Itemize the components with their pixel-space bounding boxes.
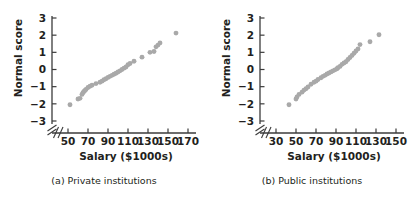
data-point — [174, 31, 179, 36]
x-axis-tick-label: 70 — [81, 135, 96, 147]
y-axis-tick-label: −1 — [30, 80, 46, 92]
y-axis-tick-label: 0 — [247, 63, 254, 75]
y-axis-tick-label: 1 — [247, 46, 254, 58]
y-axis-title-public: Normal score — [220, 18, 232, 98]
data-point — [368, 39, 373, 44]
x-axis-tick-label: 70 — [309, 135, 324, 147]
x-axis-tick-label: 130 — [365, 135, 387, 147]
figure-normal-probability-plots: 3210−1−2−3507090110130150170 Normal scor… — [0, 0, 417, 197]
x-axis-title-public: Salary ($1000s) — [264, 150, 404, 162]
y-axis-tick-label: 3 — [39, 12, 46, 24]
data-point — [377, 32, 382, 37]
y-axis-tick-label: 0 — [39, 63, 46, 75]
x-axis-tick-label: 150 — [385, 135, 407, 147]
data-series-markers — [287, 32, 382, 107]
data-point — [152, 49, 157, 54]
y-axis-tick-label: −3 — [30, 115, 46, 127]
x-axis-title-private: Salary ($1000s) — [56, 150, 196, 162]
y-axis-tick-label: −2 — [30, 98, 46, 110]
data-point — [158, 40, 163, 45]
x-axis-tick-label: 130 — [137, 135, 159, 147]
caption-public: (b) Public institutions — [208, 175, 416, 186]
data-point — [140, 55, 145, 60]
panel-private-institutions: 3210−1−2−3507090110130150170 Normal scor… — [0, 0, 208, 197]
x-axis-tick-label: 50 — [61, 135, 76, 147]
data-point — [68, 102, 73, 107]
y-axis-tick-label: 1 — [39, 46, 46, 58]
x-axis-tick-label: 50 — [289, 135, 304, 147]
x-axis-tick-label: 30 — [269, 135, 284, 147]
data-series-markers — [68, 31, 179, 107]
x-axis-tick-label: 150 — [157, 135, 179, 147]
plot-area-public: 3210−1−2−330507090110130150 — [208, 0, 416, 197]
y-axis-tick-label: −2 — [238, 98, 254, 110]
panel-public-institutions: 3210−1−2−330507090110130150 Normal score… — [208, 0, 416, 197]
x-axis-tick-label: 110 — [345, 135, 367, 147]
caption-private: (a) Private institutions — [0, 175, 208, 186]
data-point — [132, 59, 137, 64]
y-axis-tick-label: −1 — [238, 80, 254, 92]
y-axis-tick-label: 2 — [39, 29, 46, 41]
y-axis-tick-label: 3 — [247, 12, 254, 24]
data-point — [358, 42, 363, 47]
y-axis-tick-label: −3 — [238, 115, 254, 127]
plot-area-private: 3210−1−2−3507090110130150170 — [0, 0, 208, 197]
y-axis-tick-label: 2 — [247, 29, 254, 41]
x-axis-tick-label: 90 — [101, 135, 116, 147]
data-point — [356, 46, 361, 51]
data-point — [287, 102, 292, 107]
x-axis-tick-label: 90 — [329, 135, 344, 147]
x-axis-tick-label: 110 — [117, 135, 139, 147]
y-axis-title-private: Normal score — [12, 18, 24, 98]
x-axis-tick-label: 170 — [177, 135, 199, 147]
